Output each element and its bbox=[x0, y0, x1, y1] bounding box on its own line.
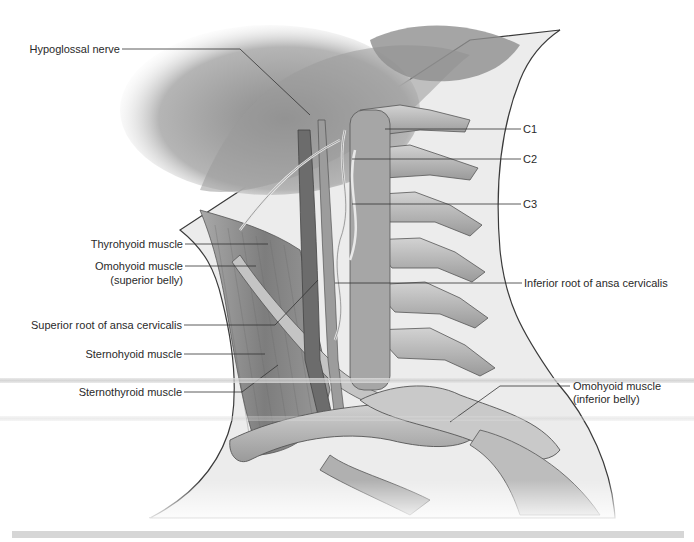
scan-band-lower bbox=[0, 416, 694, 421]
label-c2: C2 bbox=[523, 153, 537, 166]
label-superior-root-ansa: Superior root of ansa cervicalis bbox=[0, 319, 182, 332]
label-omohyoid-superior-belly: (superior belly) bbox=[0, 274, 183, 287]
anatomy-figure: Hypoglossal nerve Thyrohyoid muscle Omoh… bbox=[0, 0, 694, 542]
label-c3: C3 bbox=[523, 198, 537, 211]
label-thyrohyoid-muscle: Thyrohyoid muscle bbox=[0, 238, 183, 251]
label-omohyoid-superior: Omohyoid muscle bbox=[0, 260, 183, 273]
label-hypoglossal-nerve: Hypoglossal nerve bbox=[0, 43, 120, 56]
label-inferior-root-ansa: Inferior root of ansa cervicalis bbox=[524, 277, 668, 290]
bottom-border-band bbox=[12, 531, 684, 538]
label-sternothyroid-muscle: Sternothyroid muscle bbox=[0, 386, 182, 399]
label-c1: C1 bbox=[523, 123, 537, 136]
label-sternohyoid-muscle: Sternohyoid muscle bbox=[0, 348, 182, 361]
label-omohyoid-inferior-belly: (inferior belly) bbox=[573, 393, 640, 406]
label-omohyoid-inferior: Omohyoid muscle bbox=[573, 380, 661, 393]
